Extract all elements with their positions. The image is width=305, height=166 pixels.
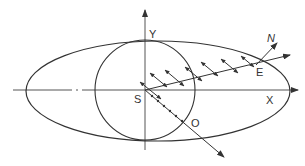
- label-e: E: [256, 66, 263, 78]
- ellipse-circle-diagram: Y X S N E O: [0, 0, 305, 166]
- double-arrows: [140, 56, 254, 99]
- normal-n: [256, 43, 277, 65]
- ellipse: [26, 41, 290, 141]
- label-n: N: [267, 32, 275, 44]
- label-x: X: [266, 94, 274, 106]
- diagram-canvas: Y X S N E O: [0, 0, 305, 166]
- label-y: Y: [149, 28, 157, 40]
- label-o: O: [191, 117, 200, 129]
- label-s: S: [134, 93, 141, 105]
- line-so: [145, 90, 224, 157]
- line-se: [145, 55, 290, 90]
